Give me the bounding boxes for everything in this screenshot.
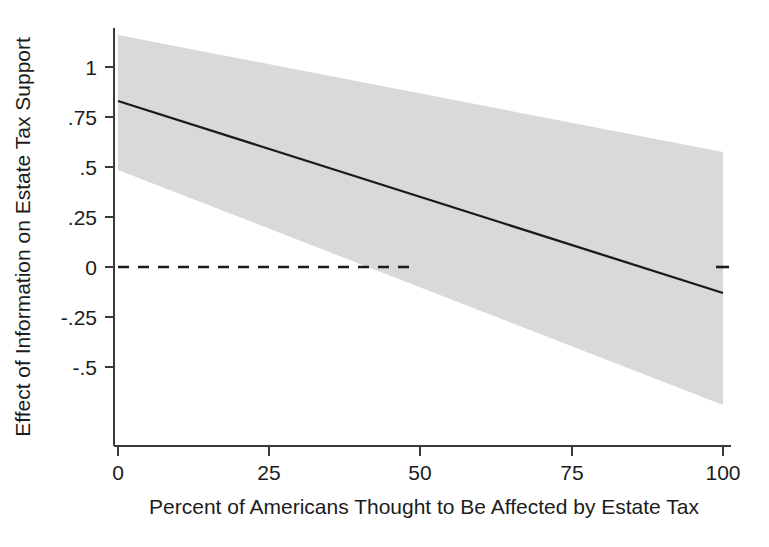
y-tick-label-0: 0	[85, 256, 97, 279]
estate-tax-marginal-effect-chart: 1 .75 .5 .25 0 -.25 -.5 0 25 50 75 100 P…	[0, 0, 769, 547]
figure-container: 1 .75 .5 .25 0 -.25 -.5 0 25 50 75 100 P…	[0, 0, 769, 547]
x-axis-title: Percent of Americans Thought to Be Affec…	[149, 495, 699, 518]
y-tick-label-0_5: .5	[79, 156, 97, 179]
y-tick-label-0_75: .75	[68, 106, 97, 129]
x-tick-label-0: 0	[112, 461, 124, 484]
y-axis-title: Effect of Information on Estate Tax Supp…	[11, 37, 34, 437]
y-tick-label-neg0_25: -.25	[61, 306, 97, 329]
x-tick-label-25: 25	[257, 461, 280, 484]
y-tick-label-0_25: .25	[68, 206, 97, 229]
y-tick-label-1: 1	[85, 56, 97, 79]
x-tick-label-75: 75	[560, 461, 583, 484]
x-tick-label-50: 50	[408, 461, 431, 484]
x-tick-label-100: 100	[705, 461, 740, 484]
y-tick-label-neg0_5: -.5	[72, 356, 97, 379]
